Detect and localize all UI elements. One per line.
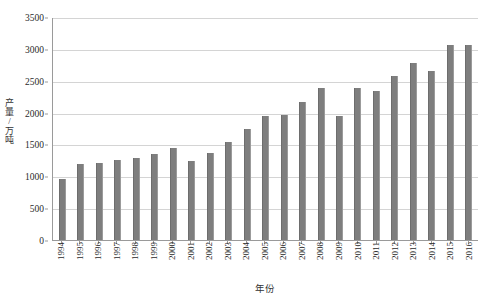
y-tick-label: 0 [39,236,44,246]
x-tick-slot: 2005 [256,242,275,282]
x-axis-tick-labels: 1994199519961997199819992000200120022003… [52,242,478,282]
bar [465,45,472,240]
bar-slot [312,18,330,240]
bar-slot [423,18,441,240]
x-tick-slot: 2001 [182,242,201,282]
y-tick-label: 2000 [25,109,44,119]
x-tick-slot: 1996 [89,242,108,282]
x-tick-slot: 2013 [404,242,423,282]
y-tick-mark [45,145,48,146]
x-tick-slot: 1997 [108,242,127,282]
bar-slot [367,18,385,240]
bar-slot [127,18,145,240]
bar [410,63,417,240]
bar [373,91,380,240]
plot-area [52,18,478,241]
bar-slot [293,18,311,240]
x-tick-label: 2004 [241,242,251,260]
bar [336,116,343,240]
bar-slot [108,18,126,240]
y-tick-label: 1500 [25,140,44,150]
y-tick-mark [45,113,48,114]
x-axis-title: 年份 [52,281,478,295]
x-tick-label: 1994 [56,242,66,260]
x-tick-label: 2015 [445,242,455,260]
bar [244,129,251,241]
x-tick-label: 2013 [408,242,418,260]
bar [318,88,325,240]
y-tick-label: 500 [30,204,44,214]
bar-slot [201,18,219,240]
y-tick-mark [45,177,48,178]
x-tick-slot: 1999 [145,242,164,282]
x-tick-slot: 2014 [422,242,441,282]
bar [207,153,214,240]
x-tick-label: 2001 [186,242,196,260]
x-tick-slot: 1995 [71,242,90,282]
y-tick-label: 3000 [25,45,44,55]
bar-slot [219,18,237,240]
bar [77,164,84,240]
bar-slot [256,18,274,240]
x-tick-label: 2011 [371,242,381,260]
y-tick-mark [45,81,48,82]
bar [114,160,121,240]
x-tick-slot: 2004 [237,242,256,282]
y-tick-mark [45,241,48,242]
bar-slot [145,18,163,240]
x-tick-label: 2005 [260,242,270,260]
y-tick-mark [45,209,48,210]
bar [96,163,103,240]
x-tick-label: 2006 [278,242,288,260]
x-tick-slot: 2015 [441,242,460,282]
bar-chart: 产量/万吨 0500100015002000250030003500 19941… [0,0,503,298]
bar [188,161,195,240]
x-tick-label: 2010 [353,242,363,260]
bar-slot [441,18,459,240]
bar [262,116,269,240]
x-tick-label: 1999 [149,242,159,260]
x-tick-label: 1995 [75,242,85,260]
bar [299,102,306,240]
bar [428,71,435,240]
x-tick-slot: 2010 [348,242,367,282]
x-tick-label: 2009 [334,242,344,260]
x-tick-slot: 2011 [367,242,386,282]
bar-slot [460,18,478,240]
bar [59,179,66,240]
y-tick-label: 3500 [25,13,44,23]
x-tick-slot: 2002 [200,242,219,282]
x-tick-slot: 2006 [274,242,293,282]
bar-slot [404,18,422,240]
bar-slot [90,18,108,240]
bar-slot [275,18,293,240]
bar [225,142,232,240]
x-tick-label: 1998 [130,242,140,260]
bar [354,88,361,240]
y-tick-label: 1000 [25,172,44,182]
x-tick-label: 2012 [390,242,400,260]
x-tick-label: 2003 [223,242,233,260]
y-axis-tick-labels: 0500100015002000250030003500 [16,18,48,241]
y-tick-mark [45,18,48,19]
bar-slot [349,18,367,240]
bar [133,158,140,240]
bar-slot [53,18,71,240]
x-tick-slot: 1994 [52,242,71,282]
x-tick-slot: 2008 [311,242,330,282]
bar-series [53,18,478,240]
bar-slot [330,18,348,240]
x-tick-slot: 2000 [163,242,182,282]
x-tick-slot: 2009 [330,242,349,282]
x-tick-label: 1997 [112,242,122,260]
x-tick-slot: 2012 [385,242,404,282]
x-tick-label: 2008 [315,242,325,260]
y-tick-label: 2500 [25,77,44,87]
bar [281,115,288,240]
bar-slot [164,18,182,240]
bar-slot [182,18,200,240]
x-tick-label: 2007 [297,242,307,260]
x-tick-slot: 2016 [459,242,478,282]
bar [170,148,177,240]
x-tick-label: 2002 [204,242,214,260]
